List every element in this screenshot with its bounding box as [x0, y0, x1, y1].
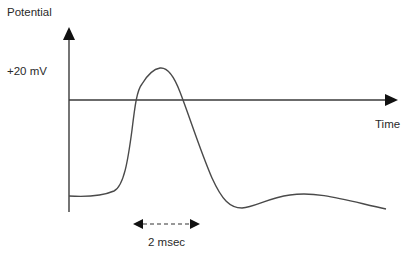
action-potential-curve [69, 68, 386, 209]
y-axis-arrow-icon [63, 27, 75, 40]
level-label: +20 mV [7, 65, 47, 77]
scale-left-arrow-icon [133, 219, 143, 229]
scale-label: 2 msec [148, 236, 185, 248]
y-axis-label: Potential [7, 6, 52, 18]
scale-right-arrow-icon [190, 219, 200, 229]
x-axis-label: Time [375, 118, 400, 130]
x-axis-arrow-icon [385, 94, 398, 106]
action-potential-diagram [0, 0, 415, 256]
